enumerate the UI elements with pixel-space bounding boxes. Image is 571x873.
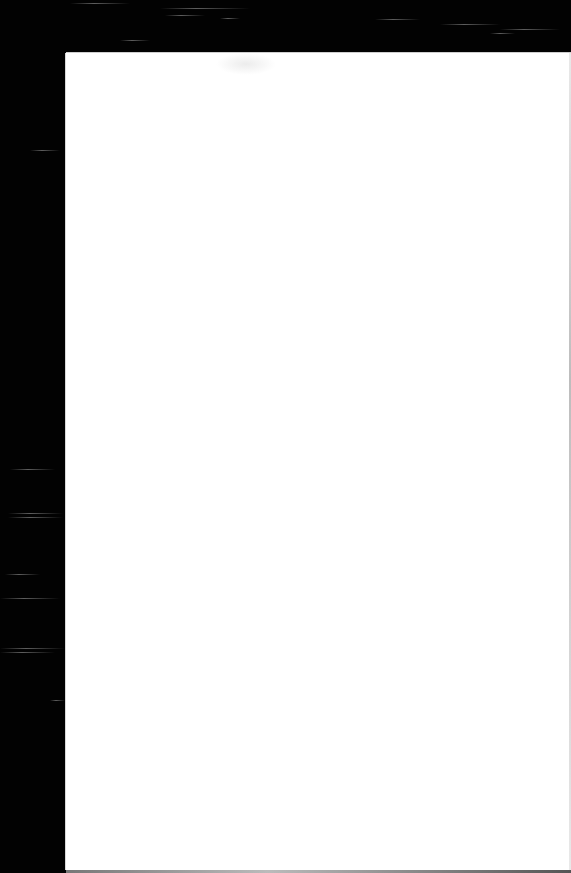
blank-paper-sheet (66, 53, 571, 870)
light-streak (220, 18, 240, 19)
light-streak (160, 8, 250, 9)
light-streak (70, 3, 130, 4)
light-streak (0, 598, 60, 599)
light-streak (30, 150, 60, 151)
light-streak (0, 648, 65, 649)
paper-smudge (216, 53, 276, 75)
light-streak (165, 15, 205, 16)
light-streak (0, 652, 55, 653)
light-streak (120, 40, 150, 41)
light-streak (8, 513, 63, 514)
light-streak (500, 29, 560, 30)
light-streak (375, 19, 420, 20)
light-streak (50, 700, 65, 701)
light-streak (10, 469, 55, 470)
light-streak (490, 33, 515, 34)
light-streak (440, 24, 500, 25)
dark-background (0, 0, 571, 873)
light-streak (8, 517, 63, 518)
light-streak (5, 574, 40, 575)
